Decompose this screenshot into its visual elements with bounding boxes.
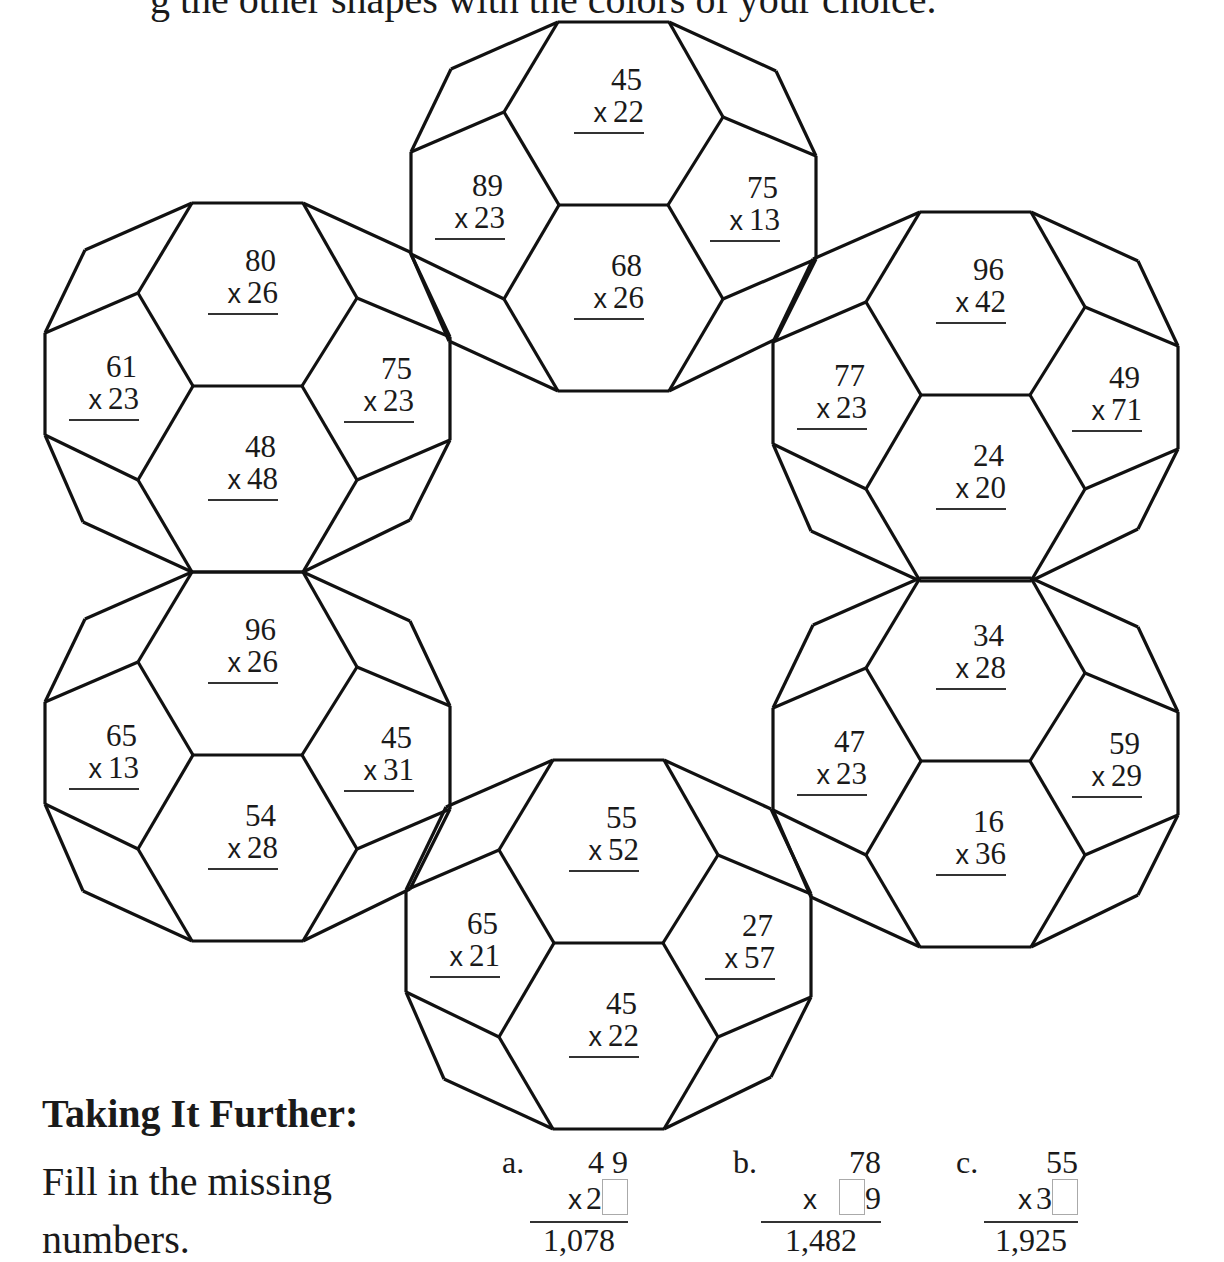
problem-bottom-left-mid-hex[interactable]: 54x28	[208, 800, 278, 870]
multiplicand: 68	[574, 250, 644, 282]
times-sign: x	[364, 387, 378, 417]
exercise-multiplier-row: x3	[984, 1179, 1078, 1223]
multiplier: 42	[975, 284, 1006, 319]
times-sign: x	[450, 942, 464, 972]
multiplier: 23	[108, 381, 139, 416]
problem-top-left-right-pent[interactable]: 75x23	[344, 353, 414, 423]
times-sign: x	[594, 98, 608, 128]
multiplier: 22	[608, 1018, 639, 1053]
problem-top-right-pent[interactable]: 75x13	[710, 172, 780, 242]
problem-bottom-right-pent[interactable]: 27x57	[705, 910, 775, 980]
multiplicand: 16	[936, 806, 1006, 838]
multiplicand: 48	[208, 431, 278, 463]
multiplier: 48	[247, 461, 278, 496]
multiplier-row: x57	[705, 942, 775, 980]
problem-top-mid-hex[interactable]: 68x26	[574, 250, 644, 320]
problem-top-right-top-hex[interactable]: 96x42	[936, 254, 1006, 324]
multiplier-row: x26	[208, 277, 278, 315]
problem-top-left-top-hex[interactable]: 80x26	[208, 245, 278, 315]
taking-it-further-instructions: Fill in the missing numbers.	[42, 1153, 402, 1262]
problem-bottom-left-top-hex[interactable]: 96x26	[208, 614, 278, 684]
multiplier-row: x28	[936, 652, 1006, 690]
exercise-letter: b.	[733, 1145, 757, 1179]
multiplicand: 65	[69, 720, 139, 752]
times-sign: x	[89, 385, 103, 415]
multiplier: 22	[613, 94, 644, 129]
multiplier: 13	[108, 750, 139, 785]
problem-top-left-pent[interactable]: 89x23	[435, 170, 505, 240]
exercise-top-number: 55	[984, 1145, 1078, 1179]
problem-top-right-right-pent[interactable]: 49x71	[1072, 362, 1142, 432]
multiplicand: 49	[1072, 362, 1142, 394]
multiplier: 23	[474, 200, 505, 235]
times-sign: x	[89, 754, 103, 784]
exercise-top-number: 4 9	[530, 1145, 628, 1179]
times-sign: x	[364, 756, 378, 786]
problem-top-left-mid-hex[interactable]: 48x48	[208, 431, 278, 501]
multiplier-row: x52	[569, 834, 639, 872]
problem-bottom-right-top-hex[interactable]: 34x28	[936, 620, 1006, 690]
multiplier: 23	[836, 756, 867, 791]
problem-bottom-right-left-pent[interactable]: 47x23	[797, 726, 867, 796]
problem-top-top-hex[interactable]: 45x22	[574, 64, 644, 134]
problem-top-right-mid-hex[interactable]: 24x20	[936, 440, 1006, 510]
multiplier: 26	[247, 275, 278, 310]
missing-digit-box[interactable]	[839, 1179, 865, 1215]
exercise-result: 1,482	[761, 1223, 881, 1257]
multiplier: 71	[1111, 392, 1142, 427]
multiplier: 29	[1111, 758, 1142, 793]
multiplicand: 59	[1072, 728, 1142, 760]
multiplier: 28	[247, 830, 278, 865]
problem-bottom-mid-hex[interactable]: 45x22	[569, 988, 639, 1058]
multiplier-row: x42	[936, 286, 1006, 324]
multiplier: 36	[975, 836, 1006, 871]
exercise-multiplier-row: x9	[761, 1179, 881, 1223]
times-sign: x	[956, 288, 970, 318]
multiplicand: 45	[344, 722, 414, 754]
problem-bottom-left-right-pent[interactable]: 45x31	[344, 722, 414, 792]
multiplicand: 61	[69, 351, 139, 383]
times-sign: x	[956, 840, 970, 870]
multiplier-row: x13	[69, 752, 139, 790]
multiplicand: 45	[574, 64, 644, 96]
multiplier: 26	[613, 280, 644, 315]
times-sign: x	[455, 204, 469, 234]
multiplier: 26	[247, 644, 278, 679]
times-sign: x	[817, 760, 831, 790]
multiplier-row: x22	[569, 1020, 639, 1058]
missing-digit-box[interactable]	[1052, 1179, 1078, 1215]
multiplicand: 75	[710, 172, 780, 204]
problem-bottom-right-mid-hex[interactable]: 16x36	[936, 806, 1006, 876]
multiplier-row: x23	[344, 385, 414, 423]
multiplicand: 24	[936, 440, 1006, 472]
multiplier: 23	[383, 383, 414, 418]
times-sign: x	[589, 836, 603, 866]
multiplier: 13	[749, 202, 780, 237]
multiplicand: 34	[936, 620, 1006, 652]
problem-bottom-left-left-pent[interactable]: 65x13	[69, 720, 139, 790]
exercise-letter: a.	[502, 1145, 524, 1179]
multiplier: 28	[975, 650, 1006, 685]
multiplicand: 54	[208, 800, 278, 832]
missing-digit-box[interactable]	[602, 1179, 628, 1215]
exercise-multiplier-row: x2	[530, 1179, 628, 1223]
times-sign: x	[228, 279, 242, 309]
times-sign: x	[956, 474, 970, 504]
multiplier-row: x23	[69, 383, 139, 421]
problem-top-left-left-pent[interactable]: 61x23	[69, 351, 139, 421]
multiplicand: 96	[208, 614, 278, 646]
times-sign: x	[228, 648, 242, 678]
multiplier-row: x71	[1072, 394, 1142, 432]
multiplicand: 45	[569, 988, 639, 1020]
multiplier-row: x36	[936, 838, 1006, 876]
problem-bottom-right-right-pent[interactable]: 59x29	[1072, 728, 1142, 798]
multiplier-row: x22	[574, 96, 644, 134]
times-sign: x	[228, 465, 242, 495]
problem-bottom-left-pent[interactable]: 65x21	[430, 908, 500, 978]
multiplicand: 89	[435, 170, 505, 202]
problem-bottom-top-hex[interactable]: 55x52	[569, 802, 639, 872]
multiplier-row: x28	[208, 832, 278, 870]
times-sign: x	[1092, 396, 1106, 426]
times-sign: x	[817, 394, 831, 424]
problem-top-right-left-pent[interactable]: 77x23	[797, 360, 867, 430]
